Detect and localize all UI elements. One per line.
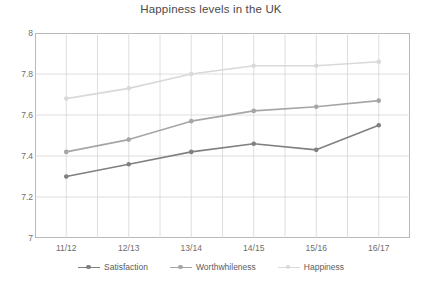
legend-marker-icon [78, 263, 100, 272]
legend-marker-icon [278, 263, 300, 272]
x-axis-tick-1: 12/13 [118, 243, 139, 253]
plot-area [35, 33, 410, 238]
x-axis-tick-3: 14/15 [243, 243, 264, 253]
y-axis-tick-0: 8 [3, 28, 33, 38]
x-axis-tick-4: 15/16 [306, 243, 327, 253]
x-axis-tick-5: 16/17 [368, 243, 389, 253]
chart-legend: SatisfactionWorthwhilenessHappiness [0, 262, 422, 272]
y-axis-tick-5: 7 [3, 233, 33, 243]
x-axis-tick-0: 11/12 [56, 243, 77, 253]
chart-container: Happiness levels in the UK 87.87.67.47.2… [0, 0, 422, 291]
chart-title: Happiness levels in the UK [0, 3, 422, 15]
x-axis-tick-2: 13/14 [181, 243, 202, 253]
legend-item-satisfaction[interactable]: Satisfaction [78, 262, 148, 272]
y-axis-tick-2: 7.6 [3, 110, 33, 120]
y-axis-tick-labels: 87.87.67.47.27 [0, 0, 33, 291]
x-axis-tick-labels: 11/1212/1313/1414/1515/1616/17 [35, 243, 410, 259]
legend-label: Happiness [304, 262, 344, 272]
legend-label: Satisfaction [104, 262, 148, 272]
y-axis-tick-3: 7.4 [3, 151, 33, 161]
legend-item-happiness[interactable]: Happiness [278, 262, 344, 272]
y-axis-tick-1: 7.8 [3, 69, 33, 79]
y-axis-tick-4: 7.2 [3, 192, 33, 202]
legend-item-worthwhileness[interactable]: Worthwhileness [170, 262, 256, 272]
legend-label: Worthwhileness [196, 262, 256, 272]
legend-marker-icon [170, 263, 192, 272]
